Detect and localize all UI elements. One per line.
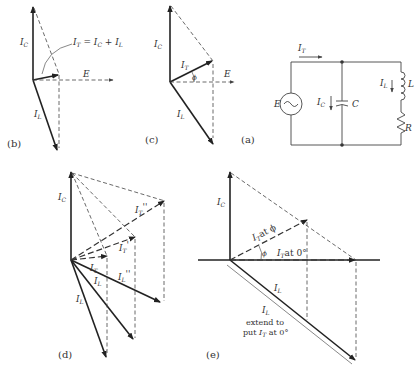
il-extend-label: IL (261, 305, 270, 316)
panel-c: IC IT IL E ϕ (c) (145, 6, 234, 145)
extend-note-line2: put IT at 0° (243, 328, 288, 338)
it-dprime-phasor (71, 201, 164, 260)
ic-label: IC (153, 39, 163, 50)
inductor-label: L (407, 79, 414, 89)
il-label: IL (176, 109, 185, 120)
it-phasor (170, 61, 212, 82)
it-at-zero-label: ITat 0° (276, 248, 307, 259)
ic-label: IC (19, 37, 29, 48)
it-dprime-label: IT'' (134, 202, 148, 216)
ic-label: IC (216, 197, 226, 208)
e-label: E (223, 69, 231, 79)
it-label: IT (89, 263, 99, 274)
il-label: IL (379, 78, 388, 89)
it-prime-label: IT' (118, 240, 129, 254)
caption-d: (d) (58, 349, 72, 360)
ic-label: IC (57, 192, 67, 203)
phasor-diagram-figure: IC IL E IT = IC + IL (b) IC IT IL E ϕ (c… (0, 0, 418, 368)
it-label: IT (180, 60, 190, 71)
panel-a-circuit: E C IC L R IL IT (273, 43, 414, 147)
resistor-symbol (397, 112, 405, 133)
extend-note-line1: extend to (246, 318, 284, 327)
il-label: IL (273, 283, 282, 294)
it-phasor (33, 75, 58, 80)
panel-b: IC IL E IT = IC + IL (b) (7, 7, 123, 150)
construction-line (171, 6, 213, 61)
ic-label: IC (316, 97, 326, 108)
equation-label: IT = IC + IL (72, 37, 123, 48)
il-phasor (230, 260, 355, 360)
phi-label: ϕ (262, 250, 267, 258)
phi-label: ϕ (192, 74, 197, 82)
caption-a: (a) (241, 134, 255, 145)
il-label: IL (75, 294, 84, 305)
it-label: IT (297, 43, 307, 54)
il-extension-line (227, 265, 352, 364)
it-at-phi-label: ITat ϕ (249, 222, 278, 244)
il-label: IL (93, 276, 102, 287)
panel-d: IC IT IT' IT'' IL IL IL'' (d) (57, 172, 165, 360)
panel-e: IC ITat ϕ ϕ ITat 0° IL IL extend to put … (198, 172, 380, 364)
capacitor-label: C (352, 99, 359, 109)
caption-b: (b) (7, 138, 21, 149)
source-label: E (273, 99, 281, 109)
caption-e: (e) (206, 349, 220, 360)
resistor-label: R (404, 123, 412, 133)
construction-line (34, 8, 59, 74)
inductor-symbol (401, 72, 405, 100)
sine-icon (284, 102, 298, 107)
caption-c: (c) (145, 134, 159, 145)
e-label: E (82, 69, 90, 79)
il-label: IL (33, 109, 42, 120)
il-dprime-label: IL'' (117, 269, 131, 283)
